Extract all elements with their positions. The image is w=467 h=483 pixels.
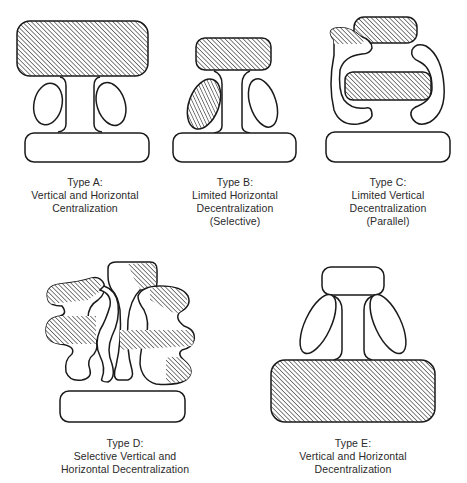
caption-type-c: Type C: Limited Vertical Decentralizatio… [313, 176, 463, 228]
caption-type-a: Type A: Vertical and Horizontal Centrali… [10, 176, 160, 215]
caption-type-e: Type E: Vertical and Horizontal Decentra… [278, 437, 428, 476]
type-c-figure [326, 17, 450, 162]
type-a-figure [17, 21, 149, 162]
type-d-operating-core [60, 391, 185, 422]
type-e-figure [271, 267, 435, 422]
caption-type-a-title: Type A: [10, 176, 160, 189]
type-d-right-shaded-bottom [166, 357, 191, 383]
type-e-middle-line [334, 296, 372, 360]
type-b-strategic-apex [196, 38, 271, 70]
type-b-operating-core [173, 133, 296, 162]
type-e-strategic-apex [322, 267, 384, 295]
caption-type-c-title: Type C: [313, 176, 463, 189]
type-d-left-shaded-mid [46, 316, 96, 344]
caption-type-a-line-1: Vertical and Horizontal [10, 189, 160, 202]
type-c-middle-line-band [345, 72, 431, 100]
caption-type-a-line-2: Centralization [10, 202, 160, 215]
caption-type-b-title: Type B: [160, 176, 310, 189]
caption-type-b-line-1: Limited Horizontal [160, 189, 310, 202]
caption-type-b-line-3: (Selective) [160, 215, 310, 228]
type-d-figure [46, 262, 194, 422]
caption-type-d-title: Type D: [40, 437, 210, 450]
decentralization-diagram [0, 0, 467, 483]
caption-type-c-line-2: Decentralization [313, 202, 463, 215]
type-e-operating-core [271, 360, 435, 422]
caption-type-e-line-1: Vertical and Horizontal [278, 450, 428, 463]
caption-type-c-line-1: Limited Vertical [313, 189, 463, 202]
type-a-middle-line [58, 77, 102, 132]
type-a-operating-core [25, 133, 149, 162]
caption-type-b-line-2: Decentralization [160, 202, 310, 215]
caption-type-b: Type B: Limited Horizontal Decentralizat… [160, 176, 310, 228]
caption-type-e-line-2: Decentralization [278, 463, 428, 476]
caption-type-d: Type D: Selective Vertical and Horizonta… [40, 437, 210, 476]
caption-type-c-line-3: (Parallel) [313, 215, 463, 228]
caption-type-d-line-1: Selective Vertical and [40, 450, 210, 463]
type-b-figure [173, 38, 296, 162]
caption-type-e-title: Type E: [278, 437, 428, 450]
type-a-strategic-apex [17, 21, 148, 76]
type-c-operating-core [326, 132, 450, 162]
caption-type-d-line-2: Horizontal Decentralization [40, 463, 210, 476]
